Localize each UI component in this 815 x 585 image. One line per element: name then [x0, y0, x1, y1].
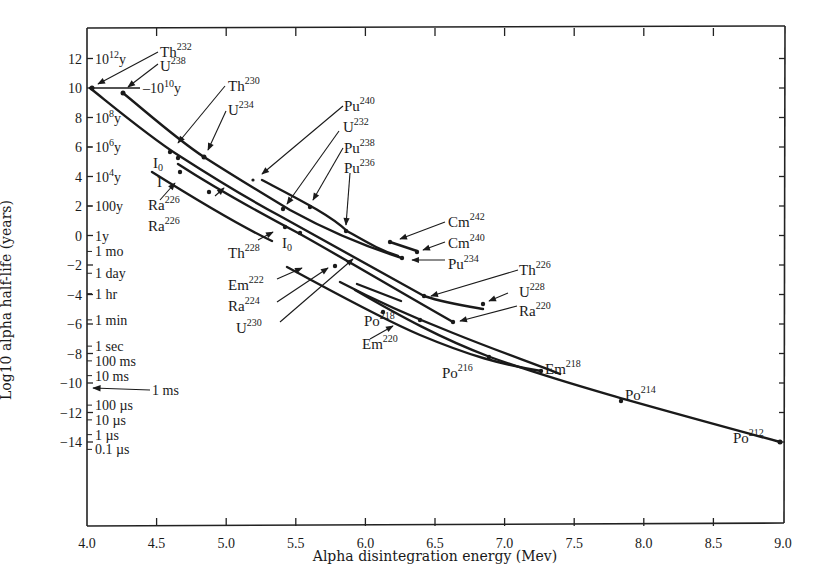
isotope-label: I [157, 174, 162, 190]
time-scale-label: 1 µs [95, 428, 119, 443]
time-scale-label: 10 ms [95, 369, 129, 384]
isotope-label: Th230 [228, 75, 260, 94]
y-tick-label: −4 [67, 288, 82, 303]
curve-ra-lower [178, 164, 453, 322]
data-point-dots [90, 86, 783, 445]
time-scale-label: 1 hr [95, 287, 118, 302]
isotope-label: Po214 [625, 384, 656, 403]
time-scale-label: 1 day [95, 266, 126, 281]
isotope-label: Th226 [519, 259, 551, 278]
time-scale-label: 0.1 µs [95, 442, 130, 457]
time-scale-label-1e10: –1010y [142, 78, 181, 96]
arrow-1ms [93, 388, 150, 390]
plot-frame [87, 26, 785, 526]
x-tick-label: 9.0 [774, 536, 792, 551]
y-tick-label: 10 [68, 81, 82, 96]
time-scale-labels: 1012y108y106y104y100y1y1 mo1 day1 hr1 mi… [87, 49, 181, 458]
isotope-label: U238 [160, 55, 186, 74]
time-scale-label-1ms: 1 ms [152, 383, 179, 398]
isotope-label: U228 [519, 281, 545, 300]
isotope-label: Em218 [545, 358, 581, 377]
y-tick-label: 0 [75, 229, 82, 244]
isotope-label: Cm240 [448, 232, 485, 251]
isotope-label: Ra226 [148, 215, 180, 234]
isotope-label: Ra226 [148, 194, 180, 213]
time-scale-label: 100y [95, 199, 123, 214]
isotope-label: Em220 [362, 333, 398, 352]
time-scale-label: 100 ms [95, 354, 136, 369]
x-axis-ticks: 4.04.55.05.56.06.57.07.58.08.59.0 [78, 28, 792, 551]
isotope-label: Th228 [228, 242, 260, 261]
isotope-label: Pu234 [448, 253, 479, 272]
isotope-label: Pu240 [344, 95, 375, 114]
y-tick-label: 6 [75, 140, 82, 155]
curve-po-lower [152, 172, 272, 241]
isotope-label: U232 [343, 116, 369, 135]
isotope-label: Pu236 [344, 157, 375, 176]
isotope-label: U230 [236, 317, 262, 336]
y-tick-label: 12 [68, 52, 82, 67]
isotope-label: Ra224 [228, 295, 260, 314]
isotope-label: Po216 [442, 362, 473, 381]
y-tick-label: −10 [60, 376, 82, 391]
time-scale-label: 1 mo [95, 244, 123, 259]
time-scale-label: 106y [95, 137, 121, 155]
x-tick-label: 8.5 [705, 536, 723, 551]
isotope-label: Po212 [733, 427, 764, 446]
isotope-label: Em222 [228, 274, 264, 293]
x-tick-label: 8.0 [635, 536, 653, 551]
isotope-label: Ra220 [519, 300, 551, 319]
isotope-labels: Th232U238Th230U234I0IRa226Ra226Pu240U232… [148, 41, 764, 446]
y-tick-label: −12 [60, 406, 82, 421]
time-scale-label: 10 µs [95, 413, 126, 428]
x-tick-label: 7.5 [565, 536, 583, 551]
x-tick-label: 4.5 [148, 536, 166, 551]
isotope-label: U234 [228, 99, 254, 118]
isotope-label: I0 [153, 155, 163, 173]
curve-em-short [357, 284, 401, 301]
y-tick-label: −14 [60, 435, 82, 450]
decay-curves [90, 88, 780, 442]
y-tick-label: −8 [67, 347, 82, 362]
x-tick-label: 4.0 [78, 536, 96, 551]
y-tick-label: 2 [75, 199, 82, 214]
time-scale-label: 1 sec [95, 339, 123, 354]
isotope-label: Po218 [364, 310, 395, 329]
isotope-label: I0 [282, 235, 292, 253]
x-tick-label: 5.5 [287, 536, 305, 551]
isotope-label: Cm242 [448, 211, 485, 230]
chart-canvas: 4.04.55.05.56.06.57.07.58.08.59.0 121086… [0, 0, 815, 585]
time-scale-label: 1 min [95, 313, 127, 328]
y-tick-label: −6 [67, 317, 82, 332]
time-scale-label: 1012y [95, 49, 126, 67]
y-tick-label: −2 [67, 258, 82, 273]
y-tick-label: 8 [75, 111, 82, 126]
time-scale-label: 104y [95, 167, 121, 185]
x-axis-label: Alpha disintegration energy (Mev) [313, 548, 557, 564]
curve-cm [390, 242, 417, 251]
x-tick-label: 5.0 [217, 536, 235, 551]
y-tick-label: 4 [75, 170, 82, 185]
time-scale-label: 1y [95, 229, 109, 244]
time-scale-label: 100 µs [95, 398, 133, 413]
isotope-label: Pu238 [344, 137, 375, 156]
